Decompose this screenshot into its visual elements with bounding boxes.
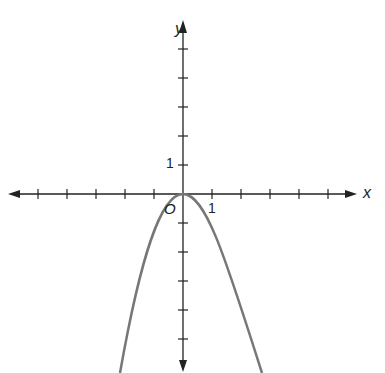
y-axis-label: y bbox=[175, 20, 183, 38]
x-axis-label: x bbox=[363, 184, 371, 202]
y-tick-label: 1 bbox=[166, 155, 174, 171]
parabola-curve bbox=[120, 194, 262, 373]
origin-label: O bbox=[164, 200, 176, 217]
graph bbox=[0, 0, 385, 373]
x-tick-label: 1 bbox=[208, 200, 216, 216]
